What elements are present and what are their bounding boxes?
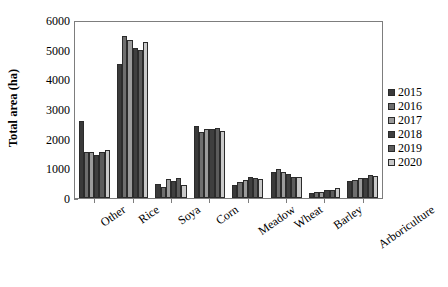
x-axis-labels: OtherRiceSoyaCornMeadowWheatBarleyArbori… (74, 200, 383, 286)
y-axis-tick-label: 2000 (24, 134, 70, 146)
x-axis-label: Other (99, 202, 130, 229)
legend-swatch (388, 89, 395, 96)
bar-group (344, 22, 382, 198)
bar-set (117, 22, 148, 198)
x-axis-label: Arboriculture (376, 202, 439, 251)
bar-group (190, 22, 228, 198)
bar (258, 179, 263, 198)
y-axis-tick-label: 1000 (24, 163, 70, 175)
bar-group (75, 22, 113, 198)
bar (296, 177, 301, 198)
bar-set (347, 22, 378, 198)
bar (143, 42, 148, 198)
bar (105, 150, 110, 198)
bar-set (194, 22, 225, 198)
bar-set (232, 22, 263, 198)
x-axis-label-text: Barley (331, 203, 365, 232)
x-axis-label-text: Rice (136, 203, 161, 226)
bar-chart: Total area (ha) 010002000300040005000600… (0, 0, 448, 287)
bar (335, 188, 340, 198)
x-axis-label-text: Arboriculture (376, 203, 437, 251)
legend-label: 2019 (398, 142, 422, 155)
x-axis-label: Wheat (292, 202, 327, 232)
x-axis-label: Corn (214, 202, 243, 228)
legend-swatch (388, 131, 395, 138)
legend: 201520162017201820192020 (388, 85, 448, 169)
x-axis-label: Soya (175, 202, 204, 228)
legend-item[interactable]: 2015 (388, 85, 448, 99)
bar-groups (75, 22, 382, 198)
bar (181, 185, 186, 198)
legend-swatch (388, 159, 395, 166)
legend-item[interactable]: 2016 (388, 99, 448, 113)
legend-swatch (388, 103, 395, 110)
legend-item[interactable]: 2020 (388, 155, 448, 169)
bar-group (267, 22, 305, 198)
legend-item[interactable]: 2019 (388, 141, 448, 155)
bar-set (79, 22, 110, 198)
bar-set (309, 22, 340, 198)
x-axis-label: Barley (331, 202, 366, 232)
legend-label: 2016 (398, 100, 422, 113)
legend-label: 2018 (398, 128, 422, 141)
legend-label: 2015 (398, 86, 422, 99)
x-axis-label: Rice (136, 202, 163, 226)
y-axis-tick-label: 5000 (24, 45, 70, 57)
bar-group (113, 22, 151, 198)
x-axis-label-text: Soya (175, 203, 202, 227)
x-axis-label-text: Wheat (292, 203, 325, 232)
y-axis-tick-label: 4000 (24, 74, 70, 86)
bar-set (155, 22, 186, 198)
y-axis-tick-labels: 0100020003000400050006000 (20, 21, 70, 199)
legend-item[interactable]: 2017 (388, 113, 448, 127)
legend-label: 2017 (398, 114, 422, 127)
legend-label: 2020 (398, 156, 422, 169)
y-axis-tick-label: 6000 (24, 15, 70, 27)
plot-area (74, 21, 383, 199)
bar (220, 131, 225, 198)
x-axis-label-text: Corn (214, 203, 241, 227)
x-axis-label-text: Other (99, 203, 129, 229)
legend-item[interactable]: 2018 (388, 127, 448, 141)
bar-group (229, 22, 267, 198)
bar-group (152, 22, 190, 198)
bar-group (305, 22, 343, 198)
legend-swatch (388, 145, 395, 152)
bar-set (271, 22, 302, 198)
y-axis-tick-label: 3000 (24, 104, 70, 116)
y-axis-tick-label: 0 (24, 193, 70, 205)
legend-swatch (388, 117, 395, 124)
bar (373, 176, 378, 198)
